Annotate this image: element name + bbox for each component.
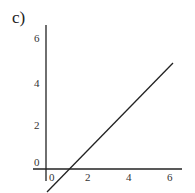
x-tick-label: 4	[126, 171, 132, 183]
y-tick-label: 6	[34, 32, 40, 44]
x-tick-label: 2	[85, 171, 91, 183]
x-tick-label: 0	[49, 171, 55, 183]
x-tick-label: 6	[167, 171, 173, 183]
y-tick-label: 0	[34, 156, 40, 168]
data-line	[47, 63, 173, 192]
y-tick-label: 2	[34, 119, 40, 131]
y-tick-label: 4	[34, 77, 40, 89]
chart-plot: 6 4 2 0 0 2 4 6	[0, 0, 195, 193]
